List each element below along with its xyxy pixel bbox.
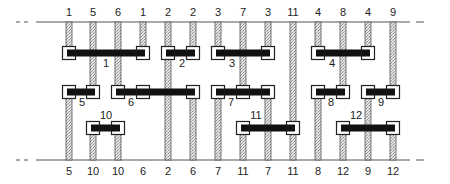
wire-segment [290,22,296,160]
wire-segment [340,22,346,92]
connector-node-core [67,89,76,96]
connector-node-core [387,89,396,96]
connector-bar [69,50,143,57]
top-label: 4 [365,6,371,18]
connector-bar [118,89,193,96]
connector-number: 3 [229,57,235,69]
wire-segment [390,22,396,92]
connector-6 [112,86,200,99]
connector-bar [318,50,368,57]
top-labels: 156122373114849 [66,6,396,18]
bottom-label: 10 [112,165,124,177]
connector-node-core [87,89,96,96]
wire-segment [190,92,196,160]
top-label: 3 [265,6,271,18]
connector-node-core [187,89,196,96]
connector-node-core [137,50,146,57]
wire-segment [165,53,171,160]
connector-node-core [341,125,350,132]
wire-segment [315,92,321,160]
bottom-label: 9 [365,165,371,177]
bottom-label: 10 [87,165,99,177]
connector-number: 10 [100,109,112,121]
connector-node-core [67,50,76,57]
wire-segment [115,22,121,92]
top-label: 4 [315,6,321,18]
bottom-label: 12 [337,165,349,177]
connector-node-core [337,89,346,96]
connector-number: 5 [79,96,85,108]
bottom-labels: 51010626711711812912 [66,165,399,177]
top-label: 7 [240,6,246,18]
connector-node-core [116,89,125,96]
top-label: 6 [115,6,121,18]
connector-number: 2 [179,57,185,69]
wire-segment [90,22,96,92]
connector-diagram: 156122373114849 51010626711711812912 123… [0,0,450,184]
bottom-label: 11 [287,165,298,177]
connector-7 [212,86,275,99]
connector-number: 1 [103,57,109,69]
connector-node-core [216,50,225,57]
connector-node-core [362,50,371,57]
connector-number: 9 [378,96,384,108]
bottom-label: 8 [315,165,321,177]
wire-segment [240,22,246,92]
top-label: 2 [190,6,196,18]
top-label: 2 [165,6,171,18]
bottom-label: 2 [165,165,171,177]
connector-node-core [387,125,396,132]
connector-node-core [287,125,296,132]
top-label: 11 [287,6,298,18]
connector-number: 7 [228,96,234,108]
connector-node-core [91,125,100,132]
connector-node-core [216,89,225,96]
connector-number: 8 [328,96,334,108]
connector-bar [243,125,293,132]
connector-node-core [316,89,325,96]
connector-node-core [262,89,271,96]
connector-bar [218,50,268,57]
bottom-label: 6 [190,165,196,177]
connector-node-core [241,125,250,132]
connector-number: 6 [128,96,134,108]
connector-node-core [316,50,325,57]
connector-number: 11 [250,109,261,121]
connector-node-core [166,50,175,57]
bottom-label: 7 [215,165,221,177]
bottom-label: 6 [140,165,146,177]
connector-number: 4 [329,57,335,69]
top-label: 3 [215,6,221,18]
top-label: 5 [90,6,96,18]
top-label: 1 [140,6,146,18]
wire-segment [66,92,72,160]
connector-node-core [137,89,150,96]
connector-bar [343,125,393,132]
connector-node-core [366,89,375,96]
top-label: 1 [66,6,72,18]
wire-segment [215,92,221,160]
connector-node-core [187,50,196,57]
connector-node-core [237,89,250,96]
connector-10 [87,122,125,135]
bottom-label: 7 [265,165,271,177]
bottom-label: 12 [387,165,399,177]
bottom-label: 11 [237,165,248,177]
top-label: 9 [390,6,396,18]
connector-number: 12 [350,109,362,121]
connector-node-core [262,50,271,57]
connector-node-core [112,125,121,132]
bottom-label: 5 [66,165,72,177]
top-label: 8 [340,6,346,18]
